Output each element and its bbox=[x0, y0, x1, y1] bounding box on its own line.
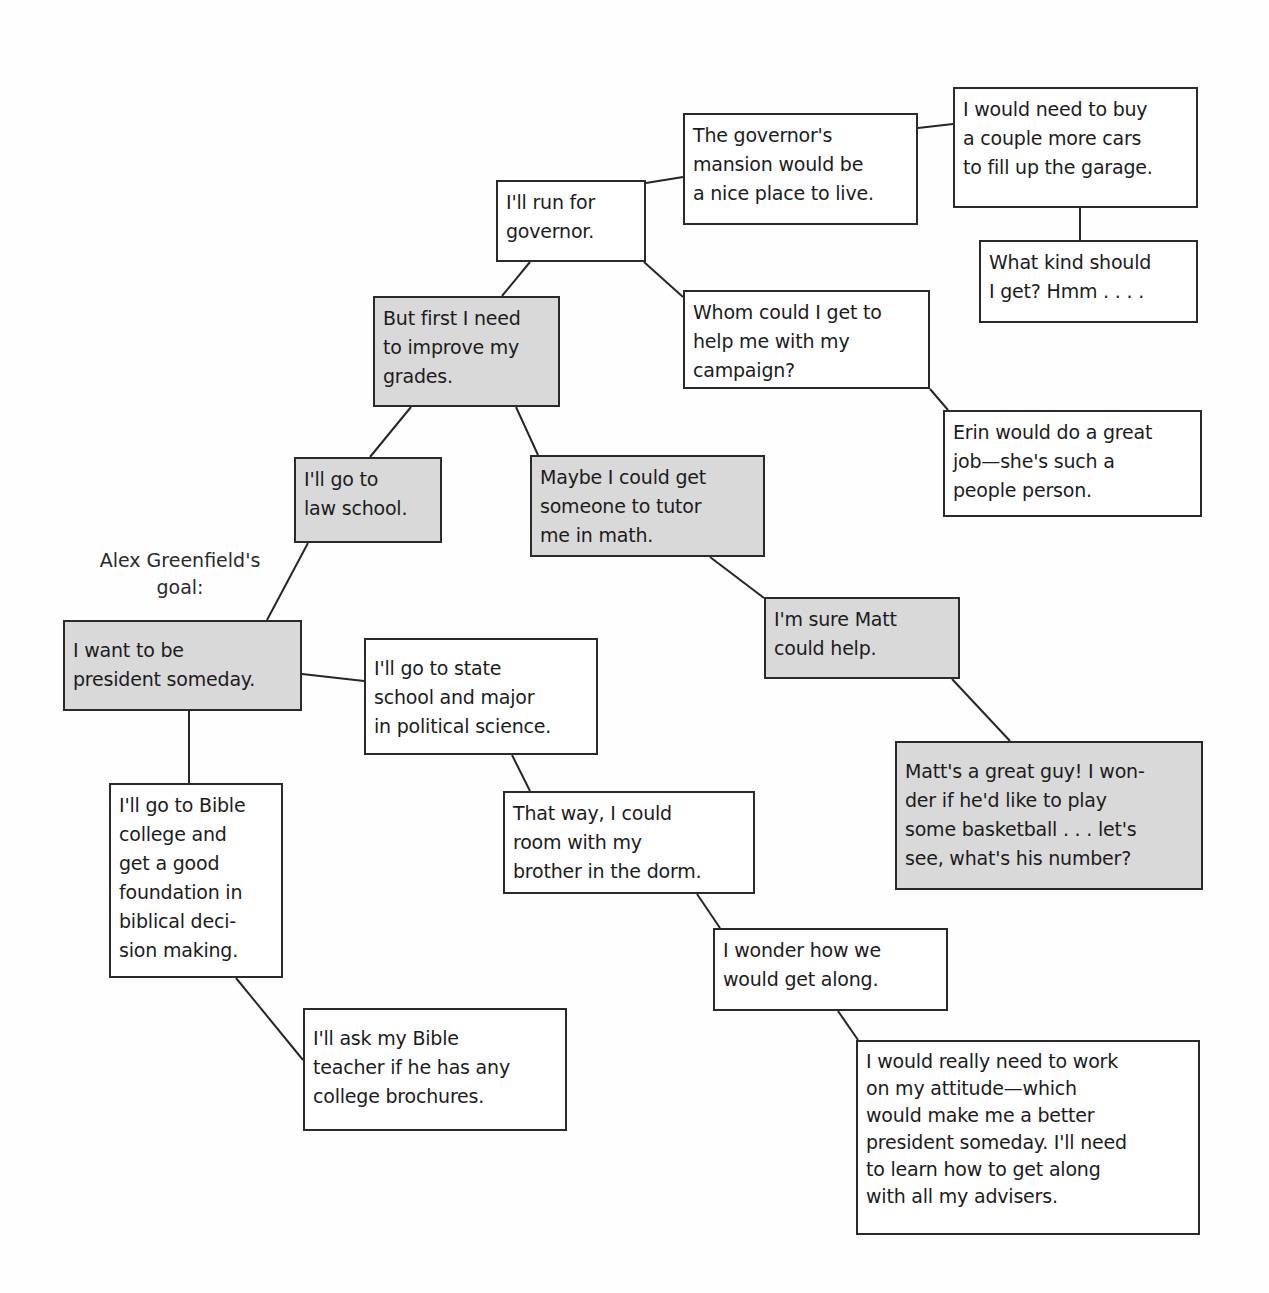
edge-state-school-room-brother bbox=[512, 755, 530, 791]
edge-get-along-attitude bbox=[838, 1011, 858, 1040]
edge-matt-help-matt-guy bbox=[952, 679, 1010, 741]
node-president-goal: I want to be president someday. bbox=[63, 620, 302, 711]
node-bible-college: I'll go to Bible college and get a good … bbox=[109, 783, 283, 978]
edge-president-state-school bbox=[302, 674, 364, 681]
node-math-tutor: Maybe I could get someone to tutor me in… bbox=[530, 455, 765, 557]
node-room-brother: That way, I could room with my brother i… bbox=[503, 791, 755, 894]
node-run-governor: I'll run for governor. bbox=[496, 180, 646, 262]
node-get-along: I wonder how we would get along. bbox=[713, 928, 948, 1011]
edge-room-brother-get-along bbox=[697, 894, 720, 928]
node-governors-mansion: The governor's mansion would be a nice p… bbox=[683, 113, 918, 225]
edge-bible-college-bible-teacher bbox=[236, 978, 303, 1060]
edge-first-grades-tutor bbox=[516, 407, 538, 455]
node-bible-teacher: I'll ask my Bible teacher if he has any … bbox=[303, 1008, 567, 1131]
edge-tutor-matt-help bbox=[710, 557, 764, 598]
node-attitude: I would really need to work on my attitu… bbox=[856, 1040, 1200, 1235]
decision-tree-diagram: Alex Greenfield's goal: I'll run for gov… bbox=[0, 0, 1269, 1293]
node-improve-grades: But first I need to improve my grades. bbox=[373, 296, 560, 407]
edge-mansion-cars bbox=[918, 124, 953, 128]
edge-run-governor-campaign bbox=[644, 262, 683, 297]
node-erin: Erin would do a great job—she's such a p… bbox=[943, 410, 1202, 517]
edge-campaign-erin bbox=[930, 389, 948, 410]
node-buy-cars: I would need to buy a couple more cars t… bbox=[953, 87, 1198, 208]
node-state-school: I'll go to state school and major in pol… bbox=[364, 638, 598, 755]
node-what-kind: What kind should I get? Hmm . . . . bbox=[979, 240, 1198, 323]
edge-law-school-first-grades bbox=[370, 407, 411, 457]
edge-first-grades-run-governor bbox=[502, 262, 530, 296]
node-matt-great-guy: Matt's a great guy! I won- der if he'd l… bbox=[895, 741, 1203, 890]
node-matt-help: I'm sure Matt could help. bbox=[764, 597, 960, 679]
node-law-school: I'll go to law school. bbox=[294, 457, 442, 543]
goal-label: Alex Greenfield's goal: bbox=[80, 547, 280, 601]
node-campaign-help: Whom could I get to help me with my camp… bbox=[683, 290, 930, 389]
edge-run-governor-mansion bbox=[646, 177, 683, 183]
